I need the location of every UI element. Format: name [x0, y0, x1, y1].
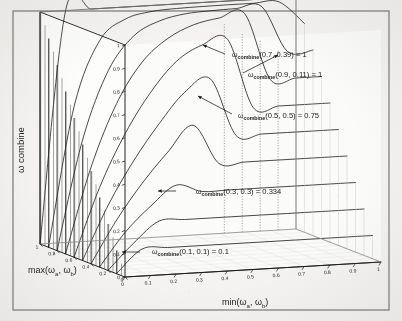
- z-tick-label: 0.3: [113, 205, 121, 211]
- x-axis-label-text: min(ωa, ωb): [222, 297, 268, 309]
- y-axis-label: max(ωa, ωb): [28, 265, 77, 277]
- x-tick-label: 0.7: [298, 270, 306, 276]
- x-axis-label: min(ωa, ωb): [222, 297, 268, 309]
- x-tick-label: 0.8: [324, 269, 332, 275]
- z-tick-label: 0.9: [113, 66, 121, 72]
- z-tick-label: 0.6: [113, 136, 121, 142]
- x-tick-label: 0.1: [144, 279, 152, 285]
- x-tick-label: 0.3: [196, 276, 204, 282]
- mesh-plot-3d: 00.10.20.30.40.50.60.70.80.9100.10.20.30…: [0, 0, 402, 321]
- y-tick-label: 0.4: [82, 264, 89, 270]
- y-tick-label: 0.8: [48, 251, 55, 257]
- x-tick-label: 0.5: [247, 273, 255, 279]
- y-axis-label-text: max(ωa, ωb): [28, 265, 77, 277]
- x-tick-label: 0.4: [221, 275, 229, 281]
- y-tick-label: 0.2: [99, 271, 106, 277]
- z-tick-label: 0.7: [113, 113, 121, 119]
- z-tick-label: 0.5: [113, 159, 121, 165]
- z-tick-label: 0.4: [113, 182, 121, 188]
- plot-layer: 00.10.20.30.40.50.60.70.80.9100.10.20.30…: [15, 0, 381, 309]
- x-tick-label: 0.9: [349, 267, 357, 273]
- x-tick-label: 0.2: [170, 278, 178, 284]
- z-tick-label: 0.2: [113, 229, 121, 235]
- z-tick-label: 0.8: [113, 89, 121, 95]
- z-axis-label: ωcombine: [15, 127, 26, 173]
- y-tick-label: 0.6: [65, 258, 72, 264]
- x-tick-label: 0.6: [272, 272, 280, 278]
- z-axis-label-text: ωcombine: [15, 127, 26, 173]
- z-tick-label: 0.1: [113, 252, 121, 258]
